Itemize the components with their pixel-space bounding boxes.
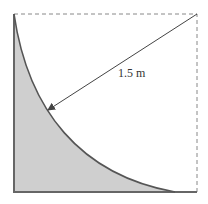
shaded-region — [14, 14, 175, 192]
radius-label: 1.5 m — [118, 66, 146, 80]
radius-arrow — [48, 14, 197, 110]
diagram-figure: 1.5 m — [0, 0, 208, 204]
